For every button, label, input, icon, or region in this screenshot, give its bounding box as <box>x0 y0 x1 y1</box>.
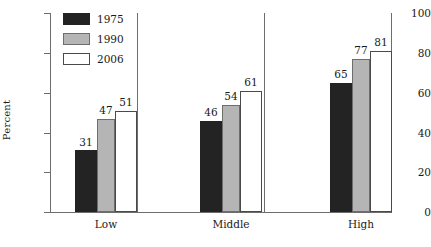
y-tick-0 <box>44 212 51 213</box>
category-label-middle: Middle <box>212 218 249 230</box>
y-axis-title: Percent <box>1 60 12 180</box>
y-tick-label-20: 20 <box>391 166 431 178</box>
value-label-middle-2006: 61 <box>244 76 257 88</box>
bar-middle-2006 <box>240 91 262 212</box>
legend-label-1975: 1975 <box>97 13 124 25</box>
value-label-high-1990: 77 <box>354 44 367 56</box>
bar-high-1975 <box>330 83 352 212</box>
bar-low-1975 <box>75 150 97 212</box>
y-tick-label-80: 80 <box>391 47 431 59</box>
legend-swatch-2006-icon <box>63 53 90 65</box>
value-label-middle-1990: 54 <box>224 90 237 102</box>
legend-label-2006: 2006 <box>97 53 124 65</box>
value-label-low-2006: 51 <box>119 96 132 108</box>
legend-label-1990: 1990 <box>97 33 124 45</box>
category-label-high: High <box>348 218 374 230</box>
bar-high-1990 <box>352 59 370 212</box>
bar-chart: Percent 100 80 60 40 20 0 31 47 51 46 54… <box>0 0 431 247</box>
value-label-high-2006: 81 <box>374 36 387 48</box>
legend-item-1975: 1975 <box>63 10 124 27</box>
bar-middle-1975 <box>200 121 222 213</box>
value-label-low-1990: 47 <box>99 104 112 116</box>
category-label-low: Low <box>95 218 117 230</box>
value-label-middle-1975: 46 <box>204 106 217 118</box>
legend-item-1990: 1990 <box>63 30 124 47</box>
bar-middle-1990 <box>222 105 240 213</box>
value-label-low-1975: 31 <box>79 136 92 148</box>
value-label-high-1975: 65 <box>334 68 347 80</box>
legend: 1975 1990 2006 <box>63 10 124 70</box>
x-axis-line <box>50 212 392 213</box>
legend-swatch-1975-icon <box>63 13 90 25</box>
y-tick-label-60: 60 <box>391 87 431 99</box>
legend-item-2006: 2006 <box>63 50 124 67</box>
y-tick-label-40: 40 <box>391 127 431 139</box>
bar-low-2006 <box>115 111 137 213</box>
legend-swatch-1990-icon <box>63 33 90 45</box>
bar-high-2006 <box>370 51 392 212</box>
y-tick-label-100: 100 <box>391 7 431 19</box>
y-tick-label-0: 0 <box>391 206 431 218</box>
bar-low-1990 <box>97 119 115 213</box>
